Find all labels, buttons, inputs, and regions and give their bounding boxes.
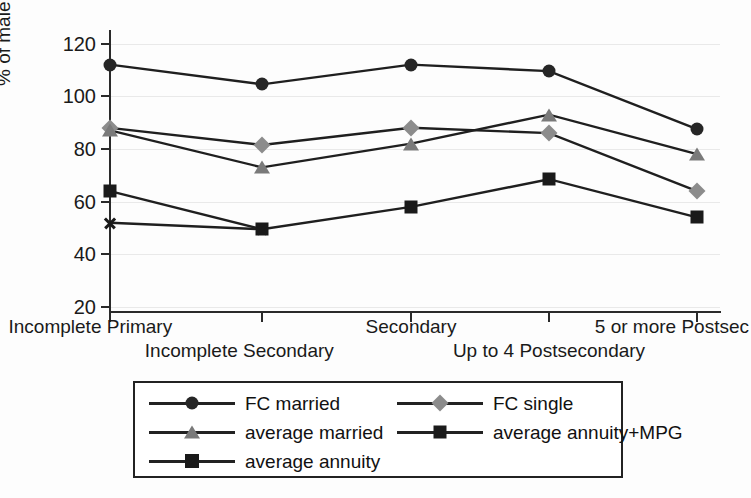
data-point-marker [691,211,704,224]
chart-figure: % of male EPV at 65 20406080100120 Incom… [0,0,751,498]
gridline [110,44,720,45]
series-line [110,179,697,229]
legend-item[interactable]: average annuity+MPG [397,420,683,444]
data-point-marker [102,124,118,137]
legend-marker-square-icon [397,420,483,444]
legend-marker-diamond-icon [397,391,483,415]
data-point-marker [543,65,556,78]
legend-label: average annuity [245,452,380,471]
legend-label: average annuity+MPG [493,423,683,442]
data-point-marker [256,78,269,91]
data-point-marker [403,137,419,150]
legend-item[interactable]: FC single [397,391,573,415]
data-point-marker [405,200,418,213]
y-axis-line [109,30,111,312]
x-axis-category-label: Up to 4 Postsecondary [453,341,645,361]
x-axis-category-label: Incomplete Primary [9,317,173,337]
x-axis-category-label: Incomplete Secondary [145,341,334,361]
data-point-marker [254,161,270,174]
y-axis-tick-label: 40 [36,244,96,264]
legend-label: FC single [493,394,573,413]
y-axis-tick-label: 100 [36,86,96,106]
x-axis-category-label: Secondary [366,317,457,337]
data-point-marker [541,108,557,121]
legend-marker-triangle-icon [149,420,235,444]
data-point-marker [403,119,420,136]
y-axis-title: % of male EPV at 65 [0,0,13,86]
data-point-marker [104,185,117,198]
x-axis-tick [548,313,550,322]
legend-marker-circle-icon [149,391,235,415]
legend-item[interactable]: FC married [149,391,340,415]
data-point-marker [689,183,706,200]
legend-marker-cross-icon [149,449,235,473]
data-point-marker [254,136,271,153]
legend-label: average married [245,423,383,442]
data-point-marker [103,216,117,230]
gridline [110,254,720,255]
x-axis-line [109,311,721,313]
data-point-marker [691,123,704,136]
gridline [110,96,720,97]
y-axis-tick-label: 60 [36,192,96,212]
data-point-marker [104,58,117,71]
data-point-marker [255,222,269,236]
y-axis-tick-label: 80 [36,139,96,159]
y-axis-tick-label: 20 [36,297,96,317]
x-axis-tick [261,313,263,322]
legend-item[interactable]: average married [149,420,383,444]
gridline [110,307,720,308]
chart-legend: FC marriedFC singleaverage marriedaverag… [133,381,623,478]
x-axis-category-label: 5 or more Postsec [595,317,749,337]
data-point-marker [543,173,556,186]
data-point-marker [405,58,418,71]
data-point-marker [689,148,705,161]
series-line [110,223,262,230]
y-axis-tick-label: 120 [36,34,96,54]
legend-item[interactable]: average annuity [149,449,380,473]
data-point-marker [541,125,558,142]
legend-label: FC married [245,394,340,413]
